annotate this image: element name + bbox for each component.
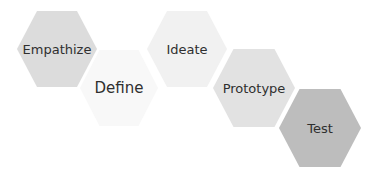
step-label-define: Define	[95, 79, 144, 97]
hexagon-empathize: Empathize	[17, 11, 97, 87]
hexagon-prototype: Prototype	[213, 49, 295, 127]
step-label-test: Test	[306, 121, 333, 136]
hexagon-ideate: Ideate	[147, 11, 227, 87]
step-label-ideate: Ideate	[166, 42, 207, 57]
hexagon-define: Define	[80, 50, 158, 126]
step-label-prototype: Prototype	[223, 81, 286, 96]
step-label-empathize: Empathize	[23, 42, 92, 57]
hexagon-test: Test	[279, 89, 361, 167]
design-thinking-diagram: Empathize Define Ideate Prototype Test	[0, 0, 373, 173]
